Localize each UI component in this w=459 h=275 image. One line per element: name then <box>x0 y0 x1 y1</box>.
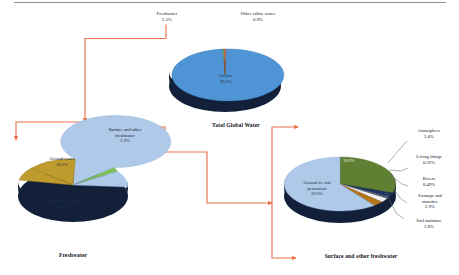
label-ground-ice-permafrost: Ground ice and permafrost 69.0% <box>286 180 348 197</box>
title-total-global-water: Total Global Water <box>186 122 286 128</box>
label-lakes: Lakes 20.9% <box>331 152 367 163</box>
title-surface-other-freshwater: Surface and other freshwater <box>285 253 437 259</box>
pie-freshwater <box>14 136 132 232</box>
label-glaciers-ice-caps: Glaciers and ice caps 68.7% <box>21 198 105 209</box>
label-atmosphere: Atmosphere 3.0% <box>404 128 454 139</box>
label-ground-water: Ground water 30.1% <box>31 156 93 167</box>
label-swamps-marshes: Swamps and marshes 2.9% <box>404 193 456 210</box>
label-soil-moisture: Soil moisture 3.8% <box>402 218 456 229</box>
label-rivers: Rivers 0.49% <box>404 176 454 187</box>
label-living-things: Living things 0.26% <box>404 154 454 165</box>
label-surface-other-freshwater-callout: Surface and other freshwater 1.2% <box>99 127 151 144</box>
figure-canvas: Oceans 96.5% Freshwater 2.5% Other salin… <box>0 0 459 275</box>
label-oceans: Oceans 96.5% <box>196 73 256 84</box>
label-freshwater-callout: Freshwater 2.5% <box>138 11 196 22</box>
connector-freshwater-down <box>85 25 166 123</box>
title-freshwater: Freshwater <box>30 252 116 258</box>
top-rule <box>14 2 446 3</box>
label-other-saline-callout: Other saline water 0.9% <box>222 11 294 22</box>
